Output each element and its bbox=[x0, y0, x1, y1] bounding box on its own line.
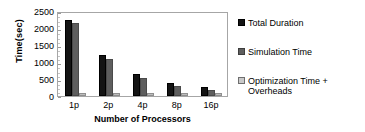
x-axis-tick-label: 16p bbox=[194, 100, 228, 110]
x-axis-tick-label: 2p bbox=[91, 100, 125, 110]
bar-group bbox=[99, 13, 120, 96]
legend-swatch-icon bbox=[238, 77, 245, 84]
plot-area bbox=[57, 12, 228, 97]
bar bbox=[65, 20, 72, 97]
legend-swatch-icon bbox=[238, 48, 245, 55]
bar bbox=[72, 23, 79, 96]
bar-group bbox=[133, 13, 154, 96]
x-axis-tick-label: 4p bbox=[125, 100, 159, 110]
bars-layer bbox=[58, 13, 227, 96]
bar-group bbox=[65, 13, 86, 96]
bar bbox=[106, 59, 113, 96]
bar bbox=[147, 93, 154, 96]
bar bbox=[140, 78, 147, 96]
x-axis-tick-label: 8p bbox=[160, 100, 194, 110]
bar-group bbox=[167, 13, 188, 96]
x-axis-title: Number of Processors bbox=[57, 114, 228, 124]
y-axis-tick-label: 500 bbox=[26, 76, 54, 85]
bar bbox=[174, 86, 181, 96]
bar-group bbox=[201, 13, 222, 96]
y-axis-tick-label: 2000 bbox=[26, 25, 54, 34]
bar bbox=[201, 87, 208, 96]
y-axis-tick-label: 1000 bbox=[26, 59, 54, 68]
y-axis-title: Time(sec) bbox=[14, 6, 24, 76]
plot-inner bbox=[58, 13, 227, 96]
x-axis-tick-label: 1p bbox=[57, 100, 91, 110]
legend-item: Optimization Time + Overheads bbox=[238, 76, 365, 96]
bar bbox=[208, 90, 215, 96]
y-axis-tick-labels: 2500 2000 1500 1000 500 0 bbox=[24, 0, 54, 132]
y-axis-tickmark bbox=[58, 97, 61, 98]
legend-label: Total Duration bbox=[248, 18, 304, 28]
y-axis-tick-label: 1500 bbox=[26, 42, 54, 51]
legend-item: Total Duration bbox=[238, 18, 365, 28]
y-axis-tick-label: 0 bbox=[26, 93, 54, 102]
bar bbox=[167, 83, 174, 96]
y-axis-tick-label: 2500 bbox=[26, 8, 54, 17]
legend-label: Simulation Time bbox=[248, 47, 312, 57]
legend-item: Simulation Time bbox=[238, 47, 365, 57]
bar bbox=[113, 93, 120, 96]
bar-chart: Time(sec) 2500 2000 1500 1000 500 0 bbox=[0, 0, 365, 132]
bar bbox=[181, 93, 188, 96]
bar bbox=[215, 93, 222, 96]
legend-swatch-icon bbox=[238, 19, 245, 26]
bar bbox=[133, 74, 140, 96]
bar bbox=[99, 55, 106, 96]
bar bbox=[79, 93, 86, 96]
legend-label: Optimization Time + Overheads bbox=[248, 76, 365, 96]
